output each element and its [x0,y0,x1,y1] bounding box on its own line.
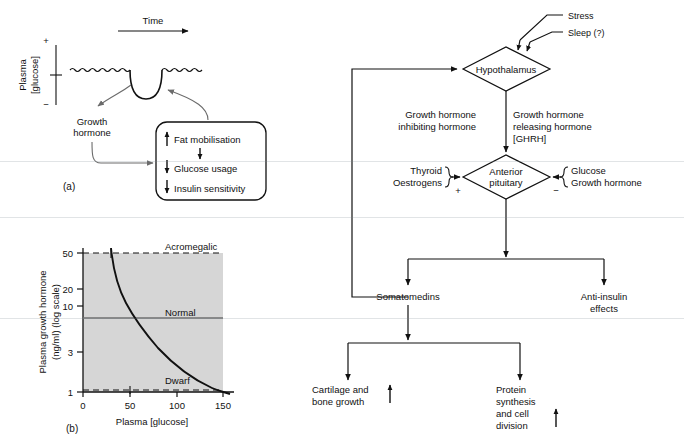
pathway-releasing-line3: [GHRH] [513,133,546,144]
chart-y-ticks [77,253,83,392]
panel-a: Time + − Plasma [glucose] Growth hormone… [17,15,266,200]
stimulatory-brace [445,167,453,187]
normal-label: Normal [165,307,196,318]
chart-xlabel: Plasma [glucose] [116,416,188,427]
node-anti-insulin-line2: effects [590,303,618,314]
glucose-baseline-right [162,69,202,72]
y-axis-label-glucose: [glucose] [29,56,40,94]
chart-xtick-0: 0 [80,400,85,411]
input-label-stress: Stress [568,11,594,21]
node-anterior-pituitary-line1: Anterior [489,166,522,177]
chart-ytick-3: 3 [68,347,73,358]
node-protein-line1: Protein [496,384,526,395]
y-axis-minus-sign: − [43,99,49,110]
stimulatory-label-thyroid: Thyroid [410,165,442,176]
chart-x-ticks [83,392,223,397]
y-axis-label-plasma: Plasma [17,58,28,90]
node-cartilage-line1: Cartilage and [312,384,369,395]
panel-a-y-axis [50,45,62,105]
dwarf-label: Dwarf [165,375,190,386]
y-axis-plus-sign: + [43,35,49,46]
panel-b-id: (b) [66,423,78,434]
pathway-releasing-line1: Growth hormone [513,109,584,120]
growth-hormone-label-line1: Growth [77,116,108,127]
chart-xtick-50: 50 [125,400,136,411]
chart-xtick-150: 150 [215,400,231,411]
glucose-baseline-left [70,69,130,72]
figure-canvas: Time + − Plasma [glucose] Growth hormone… [0,0,684,441]
inhibitory-brace [560,167,568,187]
inhibitory-inputs: Glucose Growth hormone − [553,165,642,196]
sleep-arrow [527,42,530,51]
effect-item-insulin-sensitivity: Insulin sensitivity [167,180,246,194]
glucose-dip-curve [130,70,162,99]
stimulatory-inputs: Thyroid Oestrogens + [393,165,461,196]
node-protein-line2: synthesis [496,396,536,407]
chart-ytick-1: 1 [68,387,73,398]
node-anterior-pituitary-line2: pituitary [489,177,523,188]
pathway-releasing-line2: releasing hormone [513,121,592,132]
figure-growth-hormone-regulation: Time + − Plasma [glucose] Growth hormone… [0,0,684,441]
stress-arrow [518,40,520,50]
chart-shaded-region [83,253,223,392]
effect-label-fat-mobilisation: Fat mobilisation [174,134,241,145]
chart-ylabel-line1: Plasma growth hormone [37,271,48,374]
effect-item-glucose-usage: Glucose usage [167,160,237,174]
arrow-glucose-to-gh [98,85,131,106]
sleep-leader-line [530,32,563,42]
stimulatory-label-oestrogens: Oestrogens [393,177,442,188]
flowchart: Hypothalamus Stress Sleep (?) Growth hor… [312,11,642,431]
node-somatomedins-label: Somatomedins [376,291,440,302]
pathway-inhibiting-line1: Growth hormone [405,109,476,120]
chart-ytick-50: 50 [62,248,73,259]
growth-hormone-label-line2: hormone [73,127,111,138]
stimulatory-sign: + [455,185,461,196]
chart-xtick-100: 100 [169,400,185,411]
effect-label-insulin-sensitivity: Insulin sensitivity [174,183,246,194]
pathway-inhibiting-line2: inhibiting hormone [398,121,476,132]
chart-ytick-10: 10 [62,301,73,312]
panel-b-chart: 50 20 10 3 1 0 50 100 150 Plasma growth … [37,241,234,434]
inhibitory-sign: − [553,185,559,196]
inhibitory-label-growth-hormone: Growth hormone [571,177,642,188]
acromegalic-label: Acromegalic [165,241,218,252]
node-anti-insulin-line1: Anti-insulin [581,291,627,302]
effect-item-fat-mobilisation: Fat mobilisation [167,132,241,146]
arrow-gh-to-effects-box [92,142,153,163]
inhibitory-label-glucose: Glucose [571,165,606,176]
chart-ytick-20: 20 [62,284,73,295]
node-protein-line3: and cell [496,408,529,419]
time-axis-label: Time [143,15,164,26]
effect-label-glucose-usage: Glucose usage [174,163,237,174]
node-hypothalamus-label: Hypothalamus [476,64,537,75]
input-label-sleep: Sleep (?) [568,28,605,38]
chart-ylabel-line2: (ng/ml) (log scale) [50,284,61,360]
node-cartilage-line2: bone growth [312,396,364,407]
node-protein-line4: division [496,420,528,431]
arrow-effects-to-glucose [168,90,208,120]
panel-a-id: (a) [63,181,75,192]
